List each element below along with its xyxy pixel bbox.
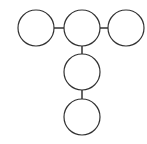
node-link-diagram <box>0 0 147 144</box>
node-n4 <box>64 54 100 90</box>
node-n1 <box>18 10 54 46</box>
node-n2 <box>64 10 100 46</box>
node-n3 <box>108 10 144 46</box>
node-n5 <box>64 99 100 135</box>
nodes <box>18 10 144 135</box>
